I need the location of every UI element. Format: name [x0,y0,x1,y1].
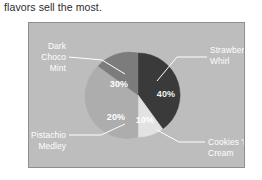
pie-label-dark-choco-mint-line3: Mint [50,63,67,73]
pie-value-cookies-n-cream: 10% [136,115,155,125]
pie-label-pistachio-medley-line1: Pistachio [31,130,66,140]
pie-value-pistachio-medley: 20% [107,112,126,122]
pie-value-dark-choco-mint: 30% [110,79,129,89]
pie-label-strawberry-whirl-line1: Strawberry [210,45,245,55]
pie-chart-panel: 40% 10% 20% 30% Dark Choco Mint Strawber… [28,22,245,168]
pie-label-cookies-n-cream-line2: Cream [208,148,234,158]
pie-label-cookies-n-cream-line1: Cookies 'N [208,137,245,147]
figure-caption: flavors sell the most. [4,1,102,14]
pie-value-strawberry-whirl: 40% [157,89,176,99]
pie-label-pistachio-medley-line2: Medley [38,141,66,151]
leader-line-cookies-n-cream [157,130,205,142]
pie-label-strawberry-whirl-line2: Whirl [210,56,230,66]
pie-label-dark-choco-mint-line2: Choco [41,52,66,62]
pie-chart-svg: 40% 10% 20% 30% Dark Choco Mint Strawber… [29,23,245,168]
pie-label-dark-choco-mint-line1: Dark [48,41,67,51]
